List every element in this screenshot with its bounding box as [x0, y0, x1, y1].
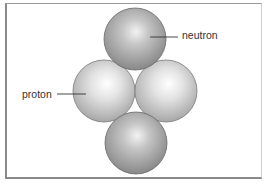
neutron-sphere-top [104, 8, 166, 70]
proton-label: proton [22, 89, 52, 100]
neutron-label: neutron [182, 30, 218, 41]
neutron-sphere-bottom [105, 112, 167, 174]
proton-sphere-left [73, 60, 135, 122]
proton-sphere-right [135, 60, 197, 122]
